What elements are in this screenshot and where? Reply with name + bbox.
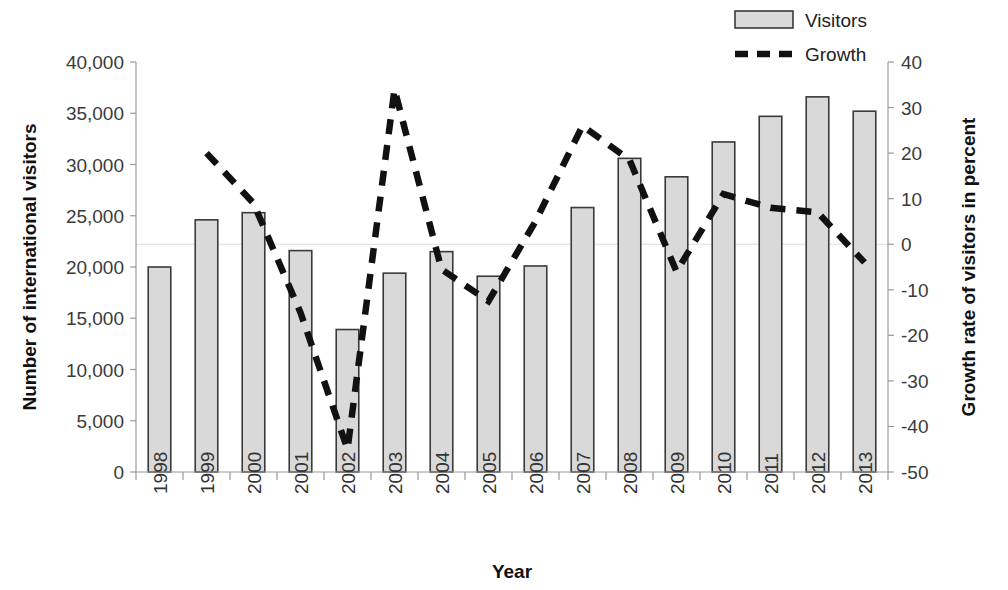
bar-2007 [571, 208, 594, 472]
right-tick-label--20: -20 [901, 325, 928, 346]
x-category-label-2003: 2003 [385, 452, 406, 494]
right-tick-label-40: 40 [901, 52, 922, 73]
x-category-label-2008: 2008 [620, 452, 641, 494]
bar-2003 [383, 273, 406, 472]
bar-2004 [430, 252, 453, 472]
right-tick-label-0: 0 [901, 234, 912, 255]
right-axis-title: Growth rate of visitors in percent [958, 117, 979, 416]
legend-label-visitors: Visitors [805, 10, 867, 31]
left-tick-label-10000: 10,000 [66, 360, 124, 381]
bar-2002 [336, 330, 359, 472]
left-tick-label-40000: 40,000 [66, 52, 124, 73]
bar-2009 [665, 177, 688, 472]
x-category-label-1999: 1999 [197, 452, 218, 494]
legend-label-growth: Growth [805, 44, 866, 65]
x-category-label-2000: 2000 [244, 452, 265, 494]
x-category-label-2009: 2009 [667, 452, 688, 494]
right-tick-label-30: 30 [901, 98, 922, 119]
bar-1999 [195, 220, 218, 472]
x-category-label-1998: 1998 [150, 452, 171, 494]
x-axis-title: Year [492, 561, 533, 582]
right-tick-label--40: -40 [901, 416, 928, 437]
bar-2012 [806, 97, 829, 472]
bar-2011 [759, 116, 782, 472]
x-category-label-2006: 2006 [526, 452, 547, 494]
bars-group [148, 97, 876, 472]
right-tick-label-10: 10 [901, 189, 922, 210]
bar-1998 [148, 267, 171, 472]
x-category-label-2005: 2005 [479, 452, 500, 494]
bar-2013 [853, 111, 876, 472]
bar-2000 [242, 213, 265, 472]
left-tick-label-15000: 15,000 [66, 308, 124, 329]
left-tick-label-0: 0 [113, 462, 124, 483]
legend-swatch-visitors [735, 11, 793, 28]
x-category-label-2001: 2001 [291, 452, 312, 494]
chart-container: 05,00010,00015,00020,00025,00030,00035,0… [0, 0, 1008, 590]
x-category-label-2010: 2010 [714, 452, 735, 494]
bar-2008 [618, 158, 641, 472]
right-tick-label--30: -30 [901, 371, 928, 392]
right-tick-label--10: -10 [901, 280, 928, 301]
left-axis-title: Number of international visitors [19, 123, 40, 410]
x-category-label-2012: 2012 [808, 452, 829, 494]
right-tick-label--50: -50 [901, 462, 928, 483]
x-category-label-2004: 2004 [432, 451, 453, 494]
x-category-label-2002: 2002 [338, 452, 359, 494]
bar-2001 [289, 251, 312, 472]
x-category-label-2007: 2007 [573, 452, 594, 494]
x-category-label-2013: 2013 [855, 452, 876, 494]
x-category-label-2011: 2011 [761, 453, 782, 494]
left-tick-label-5000: 5,000 [76, 411, 124, 432]
bar-2006 [524, 266, 547, 472]
right-tick-label-20: 20 [901, 143, 922, 164]
left-tick-label-35000: 35,000 [66, 103, 124, 124]
left-tick-label-20000: 20,000 [66, 257, 124, 278]
left-tick-label-25000: 25,000 [66, 206, 124, 227]
visitors-growth-chart: 05,00010,00015,00020,00025,00030,00035,0… [0, 0, 1008, 590]
left-tick-label-30000: 30,000 [66, 155, 124, 176]
bar-2005 [477, 276, 500, 472]
